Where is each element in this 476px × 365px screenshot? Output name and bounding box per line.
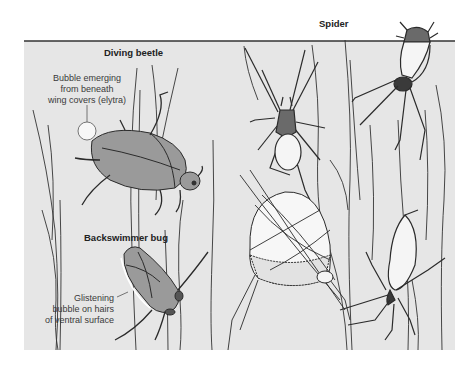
annotation-backswimmer-bubble: Glistening bubble on hairs of ventral su… [40,293,114,326]
label-diving-beetle: Diving beetle [104,47,163,58]
annotation-beetle-bubble: Bubble emerging from beneath wing covers… [46,73,128,106]
label-backswimmer: Backswimmer bug [84,232,168,243]
annotation-line: of ventral surface [40,315,114,326]
annotation-line: bubble on hairs [40,304,114,315]
beetle-bubble [78,122,96,140]
annotation-line: Glistening [40,293,114,304]
annotation-line: wing covers (elytra) [46,95,128,106]
label-spider: Spider [319,18,349,29]
annotation-line: from beneath [46,84,128,95]
aquatic-breathing-diagram: Diving beetle Spider Backswimmer bug Bub… [0,0,476,365]
annotation-line: Bubble emerging [46,73,128,84]
